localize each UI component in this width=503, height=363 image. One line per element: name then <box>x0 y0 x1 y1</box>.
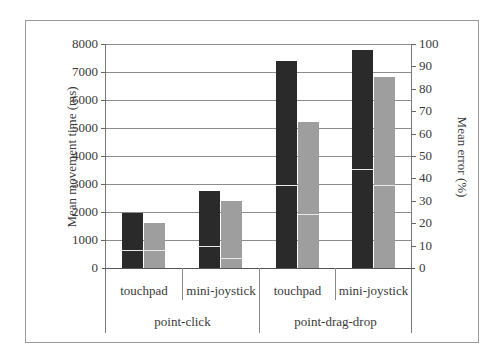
y2-tick <box>411 178 416 179</box>
bar-touchpad-drag-drop-light <box>298 122 319 268</box>
y2-tick <box>411 246 416 247</box>
bar-minijoystick-drag-drop-light <box>374 77 395 268</box>
y-tick <box>101 72 106 73</box>
y2-tick <box>411 89 416 90</box>
gridline <box>106 44 411 45</box>
error-marker <box>352 169 373 170</box>
y2-tick-label: 40 <box>419 171 449 185</box>
y-tick <box>101 100 106 101</box>
error-marker <box>374 185 395 186</box>
error-marker <box>298 214 319 215</box>
y2-tick <box>411 201 416 202</box>
y2-tick <box>411 156 416 157</box>
y2-tick-label: 90 <box>419 59 449 73</box>
y2-tick-label: 50 <box>419 149 449 163</box>
y2-tick-label: 20 <box>419 216 449 230</box>
group-label: point-click <box>106 314 259 330</box>
bar-touchpad-drag-drop-dark <box>276 61 297 268</box>
bar-touchpad-point-click-light <box>144 223 165 268</box>
bar-minijoystick-point-click-dark <box>199 191 220 268</box>
y-tick <box>101 44 106 45</box>
y2-tick-label: 80 <box>419 82 449 96</box>
y-tick <box>101 240 106 241</box>
y2-tick <box>411 134 416 135</box>
y-tick-label: 0 <box>50 261 98 275</box>
bar-minijoystick-drag-drop-dark <box>352 50 373 268</box>
error-marker <box>221 258 242 259</box>
y-tick <box>101 212 106 213</box>
y-tick-label: 8000 <box>50 37 98 51</box>
error-marker <box>199 246 220 247</box>
right-axis-line <box>411 44 412 333</box>
y2-tick <box>411 66 416 67</box>
y-tick <box>101 156 106 157</box>
category-label: mini-joystick <box>336 283 411 299</box>
left-axis-title: Mean movement time (ms) <box>64 57 80 257</box>
y2-tick <box>411 111 416 112</box>
category-label: touchpad <box>260 283 335 299</box>
y2-tick-label: 30 <box>419 194 449 208</box>
y-tick <box>101 128 106 129</box>
y-tick <box>101 184 106 185</box>
error-marker <box>122 250 143 251</box>
error-marker <box>144 250 165 251</box>
y2-tick-label: 60 <box>419 127 449 141</box>
y2-tick <box>411 223 416 224</box>
bar-minijoystick-point-click-light <box>221 201 242 268</box>
y2-tick-label: 70 <box>419 104 449 118</box>
error-marker <box>276 185 297 186</box>
right-axis-title: Mean error (%) <box>454 77 470 237</box>
category-label: mini-joystick <box>183 283 259 299</box>
category-label: touchpad <box>106 283 182 299</box>
y2-tick <box>411 44 416 45</box>
y2-tick-label: 10 <box>419 239 449 253</box>
y2-tick-label: 0 <box>419 261 449 275</box>
bar-touchpad-point-click-dark <box>122 213 143 268</box>
y2-tick-label: 100 <box>419 37 449 51</box>
group-label: point-drag-drop <box>260 314 411 330</box>
